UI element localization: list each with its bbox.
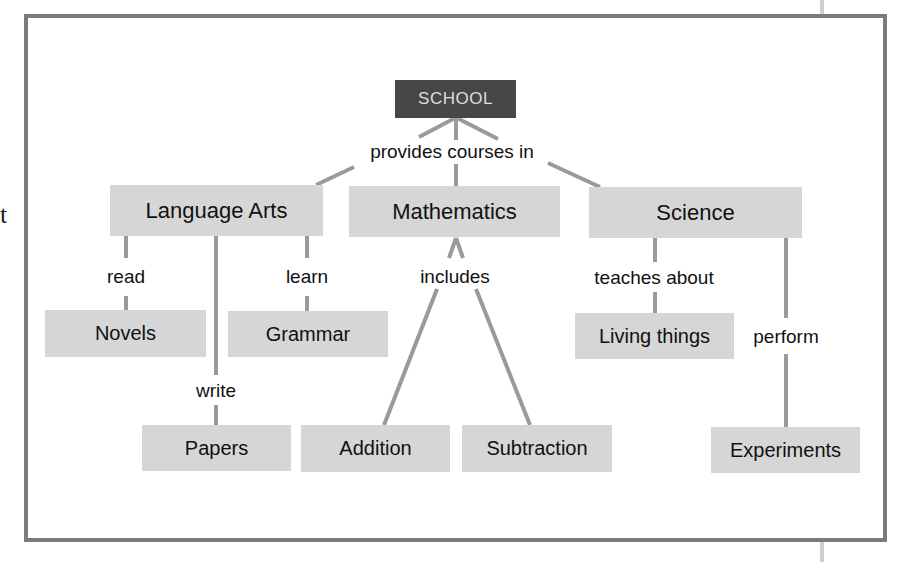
link-label-teaches-about: teaches about [592, 267, 715, 289]
link-label-write: write [194, 380, 238, 402]
node-addition: Addition [301, 425, 450, 472]
node-subtraction: Subtraction [462, 425, 612, 472]
node-novels: Novels [45, 310, 206, 357]
link-label-perform: perform [751, 326, 820, 348]
node-living-things: Living things [575, 313, 734, 359]
node-school: SCHOOL [395, 80, 516, 118]
node-experiments: Experiments [711, 427, 860, 473]
node-mathematics: Mathematics [349, 186, 560, 237]
node-grammar: Grammar [228, 311, 388, 357]
link-label-read: read [105, 266, 147, 288]
link-label-includes: includes [418, 266, 492, 288]
node-papers: Papers [142, 425, 291, 471]
node-science: Science [589, 187, 802, 238]
node-language-arts: Language Arts [110, 185, 323, 236]
link-label-learn: learn [284, 266, 330, 288]
link-label-provides-courses-in: provides courses in [368, 141, 536, 163]
